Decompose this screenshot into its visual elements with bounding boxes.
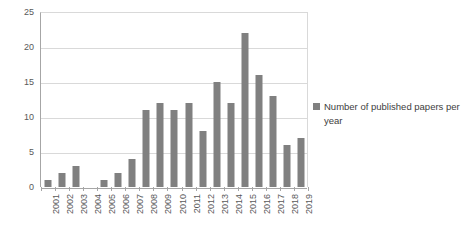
bar-slot xyxy=(111,12,125,187)
x-axis-tick xyxy=(83,187,84,191)
x-axis-tick-label: 2005 xyxy=(108,194,117,214)
bar[interactable] xyxy=(269,96,276,187)
bar-slot xyxy=(266,12,280,187)
bar[interactable] xyxy=(227,103,234,187)
bar[interactable] xyxy=(199,131,206,187)
x-axis-tick xyxy=(196,187,197,191)
y-axis-tick-label: 10 xyxy=(24,113,34,122)
x-axis-tick-label: 2012 xyxy=(207,194,216,214)
x-axis-tick xyxy=(224,187,225,191)
bar-slot xyxy=(97,12,111,187)
bar[interactable] xyxy=(157,103,164,187)
x-axis-tick-label: 2001 xyxy=(52,194,61,214)
bar[interactable] xyxy=(73,166,80,187)
x-axis-tick-label: 2008 xyxy=(150,194,159,214)
bar[interactable] xyxy=(45,180,52,187)
x-axis-tick xyxy=(69,187,70,191)
x-axis-tick xyxy=(266,187,267,191)
legend-label: Number of published papers per year xyxy=(324,100,471,128)
x-axis-tick xyxy=(238,187,239,191)
x-axis-tick xyxy=(55,187,56,191)
x-axis-tick xyxy=(153,187,154,191)
x-axis-tick xyxy=(125,187,126,191)
bar[interactable] xyxy=(255,75,262,187)
bar[interactable] xyxy=(143,110,150,187)
bar-slot xyxy=(167,12,181,187)
x-axis-tick-label: 2002 xyxy=(66,194,75,214)
x-axis-tick xyxy=(139,187,140,191)
x-axis-tick xyxy=(308,187,309,191)
y-axis-tick-label: 25 xyxy=(24,8,34,17)
bar-slot xyxy=(182,12,196,187)
x-axis-tick-label: 2018 xyxy=(291,194,300,214)
x-axis-tick-label: 2010 xyxy=(179,194,188,214)
bar-slot xyxy=(69,12,83,187)
y-axis: 0510152025 xyxy=(0,0,40,234)
bar[interactable] xyxy=(171,110,178,187)
x-axis-tick-label: 2006 xyxy=(122,194,131,214)
bar[interactable] xyxy=(129,159,136,187)
bar[interactable] xyxy=(115,173,122,187)
gridline xyxy=(41,188,307,189)
x-axis-tick xyxy=(252,187,253,191)
x-axis-tick xyxy=(167,187,168,191)
bar-slot xyxy=(83,12,97,187)
x-axis-tick-label: 2004 xyxy=(94,194,103,214)
bar[interactable] xyxy=(241,33,248,187)
bar[interactable] xyxy=(101,180,108,187)
x-axis-tick xyxy=(41,187,42,191)
y-axis-tick-label: 15 xyxy=(24,78,34,87)
bar-slot xyxy=(55,12,69,187)
bar-slot xyxy=(41,12,55,187)
x-axis-tick xyxy=(210,187,211,191)
bar-slot xyxy=(280,12,294,187)
x-axis-tick-label: 2015 xyxy=(249,194,258,214)
bar[interactable] xyxy=(297,138,304,187)
x-axis-tick xyxy=(182,187,183,191)
x-axis-tick-label: 2003 xyxy=(80,194,89,214)
bar-slot xyxy=(238,12,252,187)
x-axis-tick-label: 2009 xyxy=(164,194,173,214)
bar-slot xyxy=(210,12,224,187)
bar-slot xyxy=(252,12,266,187)
x-axis-tick xyxy=(294,187,295,191)
bar-chart: 0510152025 Number of published papers pe… xyxy=(0,0,473,234)
bar[interactable] xyxy=(185,103,192,187)
bars-layer xyxy=(41,12,308,187)
bar-slot xyxy=(153,12,167,187)
x-axis-tick xyxy=(111,187,112,191)
y-axis-tick-label: 5 xyxy=(29,148,34,157)
x-axis-tick-label: 2017 xyxy=(277,194,286,214)
bar-slot xyxy=(294,12,308,187)
bar-slot xyxy=(139,12,153,187)
bar-slot xyxy=(196,12,210,187)
legend-marker-icon xyxy=(313,103,320,110)
y-axis-tick-label: 0 xyxy=(29,183,34,192)
x-axis-tick-label: 2007 xyxy=(136,194,145,214)
x-axis-tick-label: 2019 xyxy=(305,194,314,214)
x-axis-tick-label: 2016 xyxy=(263,194,272,214)
x-axis-tick-label: 2014 xyxy=(235,194,244,214)
x-axis-tick-label: 2011 xyxy=(193,194,202,213)
bar-slot xyxy=(224,12,238,187)
bar[interactable] xyxy=(213,82,220,187)
bar[interactable] xyxy=(59,173,66,187)
bar[interactable] xyxy=(283,145,290,187)
chart-legend: Number of published papers per year xyxy=(313,100,471,128)
x-axis-tick xyxy=(280,187,281,191)
y-axis-tick-label: 20 xyxy=(24,43,34,52)
bar-slot xyxy=(125,12,139,187)
x-axis-tick xyxy=(97,187,98,191)
x-axis-tick-label: 2013 xyxy=(221,194,230,214)
